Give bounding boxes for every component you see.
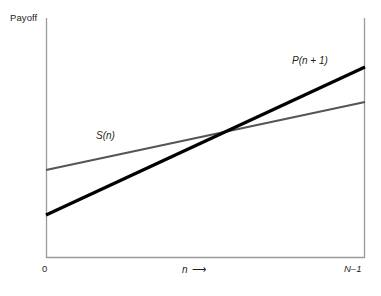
series-line-p-of-n-plus-1	[46, 67, 365, 215]
series-label-p-of-n-plus-1: P(n + 1)	[292, 56, 328, 66]
x-axis-tick-label-origin: 0	[42, 264, 47, 274]
series-line-s-of-n	[46, 102, 365, 170]
chart-figure: Payoff 0 N–1 n ⟶ S(n) P(n + 1)	[0, 0, 381, 296]
payoff-line-chart	[0, 0, 381, 296]
x-axis-tick-label-n-minus-1: N–1	[344, 264, 361, 274]
y-axis-label: Payoff	[10, 13, 37, 23]
x-axis-label: n	[182, 265, 188, 275]
arrow-right-icon: ⟶	[192, 265, 206, 275]
x-axis-label-group: n ⟶	[182, 265, 206, 275]
series-label-s-of-n: S(n)	[96, 131, 115, 141]
